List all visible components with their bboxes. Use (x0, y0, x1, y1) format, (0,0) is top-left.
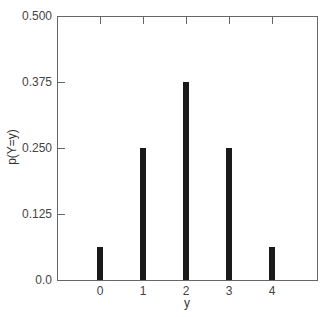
ytick-mark (57, 214, 65, 215)
ytick-label-1: 0.125 (12, 207, 52, 221)
top-tick-mark (143, 16, 144, 24)
ytick-mark (57, 82, 65, 83)
xtick-label-1: 1 (133, 284, 153, 298)
bar-y2 (183, 82, 189, 280)
bar-y3 (226, 148, 232, 280)
xtick-label-3: 3 (219, 284, 239, 298)
ytick-label-0: 0.0 (12, 273, 52, 287)
bar-y0 (97, 247, 103, 280)
y-axis-label: p(Y=y) (5, 117, 19, 177)
xtick-label-4: 4 (262, 284, 282, 298)
top-tick-mark (186, 16, 187, 24)
bar-y1 (140, 148, 146, 280)
top-tick-mark (272, 16, 273, 24)
bar-y4 (269, 247, 275, 280)
top-tick-mark (229, 16, 230, 24)
x-axis-label: y (180, 296, 194, 310)
xtick-label-0: 0 (90, 284, 110, 298)
ytick-label-3: 0.375 (12, 75, 52, 89)
ytick-mark (57, 148, 65, 149)
ytick-label-4: 0.500 (12, 9, 52, 23)
top-tick-mark (100, 16, 101, 24)
